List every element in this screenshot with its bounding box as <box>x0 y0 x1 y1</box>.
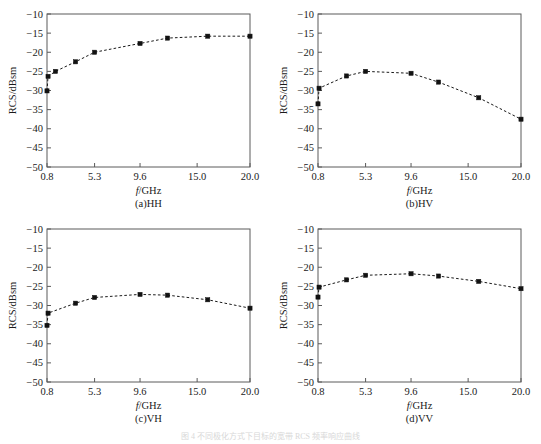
y-tick-label: −15 <box>27 243 43 254</box>
x-axis-title: f/GHz <box>136 400 162 411</box>
x-tick-label: 15.0 <box>188 171 206 182</box>
y-tick-label: −35 <box>27 319 43 330</box>
panel-label: (b)HV <box>406 198 434 210</box>
x-axis-title: f/GHz <box>407 185 433 196</box>
x-tick-label: 20.0 <box>241 171 259 182</box>
x-axis-title-unit: /GHz <box>410 185 433 196</box>
data-line <box>318 71 521 119</box>
data-point-marker <box>45 323 49 327</box>
figure-caption: 图 4 不同极化方式下目标的宽带 RCS 频率响应曲线 <box>0 430 541 441</box>
data-point-marker <box>344 74 348 78</box>
data-point-marker <box>436 80 440 84</box>
subplot-d-svg: −10−15−20−25−30−35−40−45−500.85.39.615.0… <box>271 215 541 430</box>
x-axis-title-unit: /GHz <box>139 185 162 196</box>
y-tick-label: −35 <box>298 104 314 115</box>
data-point-marker <box>344 278 348 282</box>
x-tick-label: 9.6 <box>404 386 417 397</box>
data-point-marker <box>92 295 96 299</box>
y-tick-label: −30 <box>27 300 43 311</box>
y-axis-title: RCS/dBsm <box>7 282 18 329</box>
data-point-marker <box>45 89 49 93</box>
x-tick-label: 15.0 <box>459 171 477 182</box>
y-tick-label: −20 <box>298 47 314 58</box>
x-tick-label: 5.3 <box>88 386 101 397</box>
x-axis-title: f/GHz <box>407 400 433 411</box>
data-point-marker <box>53 69 57 73</box>
y-tick-label: −40 <box>298 123 314 134</box>
y-tick-label: −20 <box>27 47 43 58</box>
data-point-marker <box>248 34 252 38</box>
panel-label: (a)HH <box>135 198 162 210</box>
x-tick-label: 0.8 <box>311 171 324 182</box>
data-point-marker <box>477 279 481 283</box>
data-point-marker <box>436 274 440 278</box>
y-tick-label: −35 <box>27 104 43 115</box>
y-tick-label: −10 <box>298 224 314 235</box>
y-tick-label: −45 <box>298 142 314 153</box>
x-tick-label: 9.6 <box>404 171 417 182</box>
figure-root: −10−15−20−25−30−35−40−45−500.85.39.615.0… <box>0 0 541 444</box>
subplot-d-vv: −10−15−20−25−30−35−40−45−500.85.39.615.0… <box>271 215 541 430</box>
data-point-marker <box>409 71 413 75</box>
y-tick-label: −30 <box>298 85 314 96</box>
data-line <box>318 274 521 297</box>
data-point-marker <box>92 50 96 54</box>
data-point-marker <box>317 285 321 289</box>
subplot-c-vh: −10−15−20−25−30−35−40−45−500.85.39.615.0… <box>0 215 270 430</box>
data-point-marker <box>165 36 169 40</box>
data-point-marker <box>316 295 320 299</box>
subplot-c-svg: −10−15−20−25−30−35−40−45−500.85.39.615.0… <box>0 215 270 430</box>
plot-frame <box>318 229 521 382</box>
data-point-marker <box>363 273 367 277</box>
y-tick-label: −25 <box>298 66 314 77</box>
y-tick-label: −35 <box>298 319 314 330</box>
data-point-marker <box>248 306 252 310</box>
x-axis-title-unit: /GHz <box>410 400 433 411</box>
y-tick-label: −40 <box>298 338 314 349</box>
data-point-marker <box>519 287 523 291</box>
y-axis-title: RCS/dBsm <box>278 67 289 114</box>
data-point-marker <box>73 301 77 305</box>
x-tick-label: 20.0 <box>512 386 530 397</box>
x-axis-title: f/GHz <box>136 185 162 196</box>
data-line <box>47 294 250 325</box>
x-tick-label: 15.0 <box>459 386 477 397</box>
data-point-marker <box>316 102 320 106</box>
data-point-marker <box>206 34 210 38</box>
y-tick-label: −25 <box>298 281 314 292</box>
data-point-marker <box>73 60 77 64</box>
y-axis-title: RCS/dBsm <box>278 282 289 329</box>
y-tick-label: −15 <box>27 28 43 39</box>
data-point-marker <box>477 96 481 100</box>
subplot-b-svg: −10−15−20−25−30−35−40−45−500.85.39.615.0… <box>271 0 541 215</box>
subplot-b-hv: −10−15−20−25−30−35−40−45−500.85.39.615.0… <box>271 0 541 215</box>
y-tick-label: −45 <box>27 142 43 153</box>
y-tick-label: −40 <box>27 123 43 134</box>
y-tick-label: −10 <box>27 9 43 20</box>
y-tick-label: −20 <box>298 262 314 273</box>
data-point-marker <box>138 41 142 45</box>
y-tick-label: −25 <box>27 66 43 77</box>
y-tick-label: −45 <box>298 357 314 368</box>
y-tick-label: −30 <box>27 85 43 96</box>
x-tick-label: 9.6 <box>133 171 146 182</box>
data-point-marker <box>165 293 169 297</box>
data-point-marker <box>519 117 523 121</box>
data-point-marker <box>206 298 210 302</box>
data-point-marker <box>138 292 142 296</box>
data-point-marker <box>46 311 50 315</box>
y-tick-label: −30 <box>298 300 314 311</box>
subplot-a-hh: −10−15−20−25−30−35−40−45−500.85.39.615.0… <box>0 0 270 215</box>
y-tick-label: −10 <box>27 224 43 235</box>
data-point-marker <box>409 272 413 276</box>
x-tick-label: 9.6 <box>133 386 146 397</box>
panel-label: (d)VV <box>406 413 434 425</box>
y-tick-label: −40 <box>27 338 43 349</box>
x-axis-title-unit: /GHz <box>139 400 162 411</box>
y-axis-title: RCS/dBsm <box>7 67 18 114</box>
x-tick-label: 0.8 <box>40 386 53 397</box>
x-tick-label: 0.8 <box>40 171 53 182</box>
y-tick-label: −20 <box>27 262 43 273</box>
x-tick-label: 5.3 <box>359 171 372 182</box>
plot-frame <box>318 14 521 167</box>
